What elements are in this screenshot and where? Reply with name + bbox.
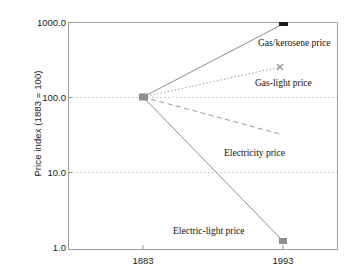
- x-tick-label-1993: 1993: [253, 255, 313, 266]
- x-tick-marks: [143, 245, 283, 250]
- y-tick-label-100: 100.0: [6, 92, 66, 103]
- y-tick-label-1: 1.0: [6, 242, 66, 253]
- y-tick-label-10: 10.0: [6, 167, 66, 178]
- series-label-gas-kerosene: Gas/kerosene price: [258, 38, 331, 48]
- series-label-gas-light: Gas-light price: [255, 78, 312, 88]
- data-point-gas-kerosene-1993: [279, 22, 288, 26]
- series-line-electric-light: [143, 97, 283, 241]
- chart-container: Price index (1883 = 100) 1000.0 100.0 10…: [0, 0, 362, 277]
- y-tick-label-1000: 1000.0: [6, 17, 66, 28]
- series-label-electric-light: Electric-light price: [173, 226, 244, 236]
- series-line-electricity: [143, 97, 280, 134]
- y-tick-marks: [68, 23, 72, 250]
- data-point-origin-1883: [139, 94, 148, 101]
- y-axis-title: Price index (1883 = 100): [32, 24, 43, 224]
- series-label-electricity: Electricity price: [224, 148, 285, 158]
- data-point-electric-light-1993: [279, 238, 287, 244]
- plot-area: [68, 22, 338, 250]
- x-tick-label-1883: 1883: [113, 255, 173, 266]
